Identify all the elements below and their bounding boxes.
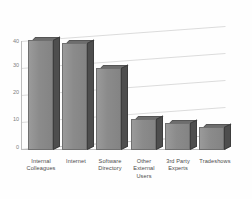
bar-side-face [53, 36, 60, 150]
bar-front-face [62, 43, 87, 150]
category-label-line: Colleagues [16, 165, 66, 172]
bar-side-face [156, 115, 163, 150]
x-axis-category-labels: Internal Colleagues Internet Software Di… [0, 152, 252, 199]
bar-front-face [165, 123, 190, 150]
bar-front-face [131, 119, 156, 150]
category-label-line: Users [122, 173, 166, 180]
bar-side-face [121, 64, 128, 150]
bar-front-face [28, 40, 53, 150]
bar-chart: 40 30 20 10 0 [0, 0, 252, 199]
bar-front-face [96, 68, 121, 150]
category-label-tradeshows: Tradeshows [190, 158, 240, 165]
bar-front-face [199, 127, 224, 150]
bar-side-face [190, 119, 197, 150]
bar-side-face [224, 123, 231, 150]
bar-side-face [87, 39, 94, 150]
category-label-line: Tradeshows [190, 158, 240, 165]
category-label-line: Experts [155, 165, 201, 172]
